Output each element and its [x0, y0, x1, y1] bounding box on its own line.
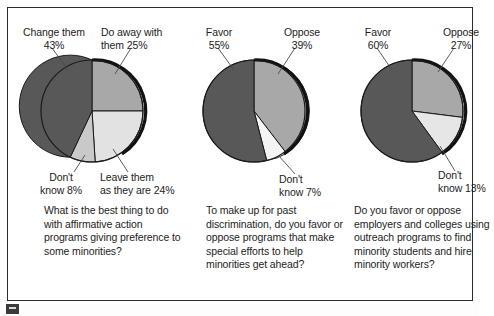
pie-chart-1: Change them 43% Do away with them 25% Do… — [12, 8, 172, 198]
leader-line-favor — [377, 48, 392, 70]
pie-1-label-do-away-with-them: Do away with them 25% — [101, 26, 179, 51]
caption-question-2: To make up for past discrimination, do y… — [206, 204, 346, 272]
slice-oppose — [412, 60, 463, 117]
pie-2-label-oppose: Oppose 39% — [268, 26, 336, 51]
figure-frame: Change them 43% Do away with them 25% Do… — [7, 7, 473, 301]
pie-chart-3: Favor 60% Oppose 27% Don't know 13% — [339, 8, 494, 198]
pie-3-label-dont-know: Don't know 13% — [438, 169, 494, 194]
pie-3-label-favor: Favor 60% — [335, 26, 421, 51]
pie-3-label-oppose: Oppose 27% — [427, 26, 494, 51]
pie-1-label-leave-them: Leave them as they are 24% — [100, 171, 186, 196]
leader-line-favor — [218, 48, 234, 70]
pie-1-label-dont-know: Don't know 8% — [25, 171, 97, 196]
slice-leave-them-as-they-are — [92, 111, 143, 162]
pie-2-label-favor: Favor 55% — [176, 26, 262, 51]
caption-question-1: What is the best thing to do with affirm… — [44, 204, 184, 258]
pie-1-label-change-them: Change them 43% — [8, 26, 100, 51]
leader-line-oppose — [438, 48, 454, 72]
scan-artifact-mark — [6, 304, 19, 314]
slice-do-away-with-them — [92, 60, 143, 111]
leader-line-dont-know — [279, 156, 295, 174]
pie-chart-2: Favor 55% Oppose 39% Don't know 7% — [178, 8, 338, 198]
caption-question-3: Do you favor or oppose employers and col… — [354, 204, 494, 272]
